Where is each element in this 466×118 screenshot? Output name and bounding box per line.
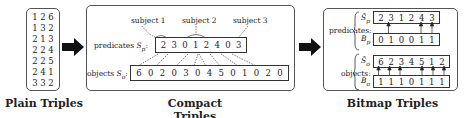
right-arrow-icon	[62, 38, 84, 56]
plain-triples-panel: 126132213224225241332	[26, 8, 60, 91]
triple-cell: 4	[40, 67, 45, 77]
triple-cell: 1	[48, 67, 53, 77]
brace-icon	[352, 10, 360, 90]
bitmap-pointer-arrows	[373, 0, 453, 100]
plain-triple-row: 241	[27, 67, 59, 77]
triple-cell: 5	[48, 56, 53, 66]
triple-cell: 4	[48, 45, 53, 55]
plain-triple-row: 332	[27, 78, 59, 88]
plain-triple-row: 126	[27, 12, 59, 22]
sp-hat-symbol: Ŝp	[361, 13, 370, 24]
triple-cell: 2	[32, 34, 37, 44]
so-hat-symbol: Ŝo	[361, 56, 370, 67]
plain-triple-row: 224	[27, 45, 59, 55]
triple-cell: 1	[32, 12, 37, 22]
triple-cell: 2	[32, 56, 37, 66]
triple-cell: 3	[48, 34, 53, 44]
triple-cell: 2	[48, 23, 53, 33]
compact-triples-caption: Compact Triples	[150, 97, 240, 118]
triple-cell: 3	[40, 23, 45, 33]
right-arrow-icon	[299, 38, 321, 56]
triple-cell: 3	[40, 78, 45, 88]
plain-triple-row: 225	[27, 56, 59, 66]
compact-pointer-arrows	[86, 5, 295, 91]
triple-cell: 2	[32, 45, 37, 55]
bo-symbol: Bo	[361, 76, 370, 87]
triple-cell: 2	[40, 12, 45, 22]
triple-cell: 2	[40, 56, 45, 66]
triple-cell: 1	[40, 34, 45, 44]
triple-cell: 3	[32, 78, 37, 88]
triple-cell: 2	[40, 45, 45, 55]
plain-triple-row: 213	[27, 34, 59, 44]
triple-cell: 2	[32, 67, 37, 77]
bitmap-triples-caption: Bitmap Triples	[345, 97, 440, 110]
triple-cell: 6	[48, 12, 53, 22]
plain-triple-row: 132	[27, 23, 59, 33]
plain-triples-caption: Plain Triples	[0, 97, 88, 110]
triple-cell: 1	[32, 23, 37, 33]
triple-cell: 2	[48, 78, 53, 88]
bp-symbol: Bp	[361, 34, 370, 45]
